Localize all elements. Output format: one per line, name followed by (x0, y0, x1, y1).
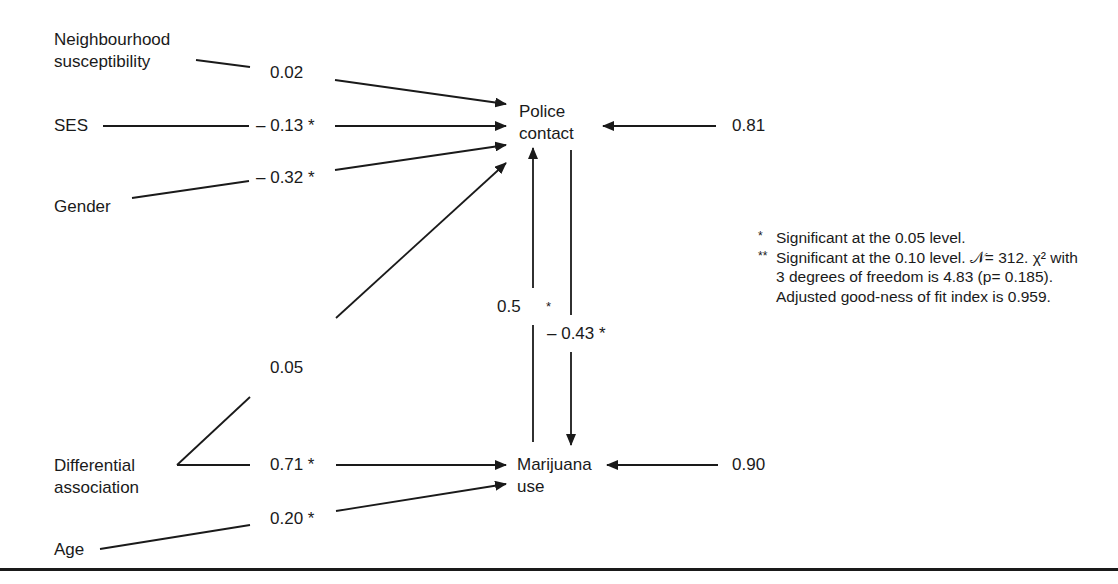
significance-notes: * Significant at the 0.05 level. ** Sign… (758, 228, 1078, 306)
note-row-2: ** Significant at the 0.10 level. 𝒩= 312… (758, 248, 1078, 307)
bottom-rule (0, 568, 1118, 571)
node-label-line2: susceptibility (54, 51, 170, 73)
node-differential-association: Differential association (54, 455, 139, 499)
coef-age-marijuana: 0.20 * (270, 508, 314, 530)
coef-differential-police: 0.05 (270, 357, 303, 379)
node-label-line2: association (54, 477, 139, 499)
node-label-line2: use (517, 476, 592, 498)
note-mark: ** (758, 248, 776, 307)
coef-marijuana-police-significance: * (546, 296, 551, 318)
node-label-line1: Police (519, 101, 574, 123)
node-label-line1: Neighbourhood (54, 29, 170, 51)
node-age: Age (54, 539, 84, 561)
node-label-line1: Marijuana (517, 454, 592, 476)
residual-police: 0.81 (732, 115, 765, 137)
coef-ses-police: – 0.13 * (256, 115, 315, 137)
coef-neighbourhood-police: 0.02 (270, 62, 303, 84)
node-ses: SES (54, 115, 88, 137)
coef-marijuana-police: 0.5 (497, 296, 521, 318)
coef-differential-marijuana: 0.71 * (270, 454, 314, 476)
residual-marijuana: 0.90 (732, 454, 765, 476)
node-neighbourhood-susceptibility: Neighbourhood susceptibility (54, 29, 170, 73)
node-police-contact: Police contact (519, 101, 574, 145)
note-row-1: * Significant at the 0.05 level. (758, 228, 1078, 248)
note-mark: * (758, 228, 776, 248)
coef-gender-police: – 0.32 * (256, 167, 315, 189)
node-label-line1: Differential (54, 455, 139, 477)
note-text: Significant at the 0.05 level. (776, 228, 1078, 248)
node-gender: Gender (54, 196, 111, 218)
node-marijuana-use: Marijuana use (517, 454, 592, 498)
node-label-line2: contact (519, 123, 574, 145)
note-text: Significant at the 0.10 level. 𝒩= 312. χ… (776, 248, 1078, 307)
coef-police-marijuana: – 0.43 * (547, 323, 606, 345)
